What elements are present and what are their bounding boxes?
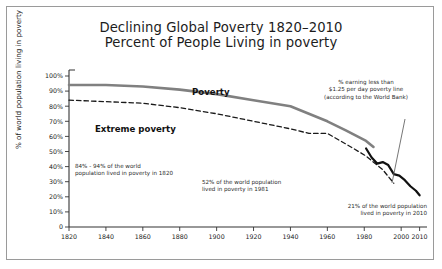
- y-tick-label: 0: [59, 223, 63, 230]
- y-tick-label: 100%: [45, 72, 63, 79]
- x-tick-label: 1980: [356, 233, 372, 240]
- y-tick-label: 40%: [49, 163, 63, 170]
- annotation-2010: 21% of the world population lived in pov…: [299, 203, 427, 218]
- chart-plot-area: 010%20%30%40%50%60%70%80%90%100% 1820184…: [7, 7, 435, 261]
- x-tick-label: 1900: [209, 233, 225, 240]
- y-tick-label: 70%: [49, 118, 63, 125]
- y-axis-title: % of world population living in poverty: [14, 9, 23, 149]
- y-axis-ticks: 010%20%30%40%50%60%70%80%90%100%: [45, 72, 69, 230]
- x-tick-label: 1940: [282, 233, 298, 240]
- x-tick-label: 1860: [135, 233, 151, 240]
- x-tick-label: 2010: [412, 233, 428, 240]
- annotation-1981: 52% of the world population lived in pov…: [202, 179, 322, 194]
- x-axis-ticks: 1820184018601880190019201940196019802000…: [61, 227, 428, 240]
- x-tick-label: 2000: [393, 233, 409, 240]
- y-tick-label: 60%: [49, 133, 63, 140]
- x-tick-label: 1880: [172, 233, 188, 240]
- y-tick-label: 30%: [49, 178, 63, 185]
- annotation-1820: 84% - 94% of the world population lived …: [75, 163, 205, 178]
- x-tick-label: 1820: [61, 233, 77, 240]
- x-tick-label: 1960: [319, 233, 335, 240]
- y-tick-label: 90%: [49, 87, 63, 94]
- annotation-worldbank: % earning less than $1.25 per day povert…: [305, 79, 427, 101]
- y-tick-label: 80%: [49, 103, 63, 110]
- x-tick-label: 1840: [98, 233, 114, 240]
- x-tick-label: 1920: [246, 233, 262, 240]
- series-label-poverty: Poverty: [192, 87, 230, 97]
- series-line: [366, 148, 420, 195]
- chart-figure: Declining Global Poverty 1820–2010 Perce…: [6, 6, 434, 260]
- y-tick-label: 20%: [49, 193, 63, 200]
- y-tick-label: 10%: [49, 208, 63, 215]
- series-label-extreme-poverty: Extreme poverty: [95, 124, 176, 134]
- worldbank-leader-line: [392, 119, 405, 183]
- y-tick-label: 50%: [49, 148, 63, 155]
